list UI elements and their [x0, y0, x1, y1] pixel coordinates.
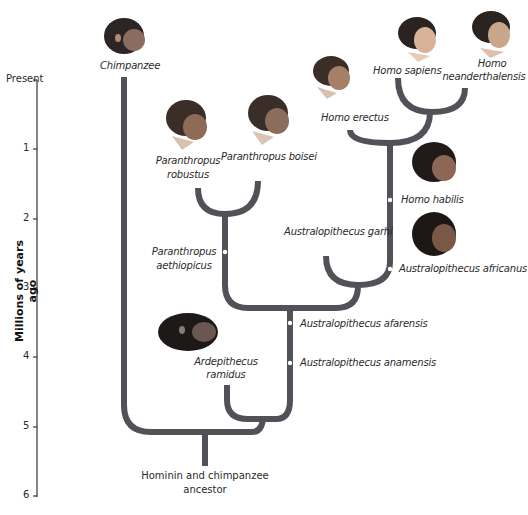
- label-paranthropus-aethiopicus-1: Paranthropus: [148, 245, 220, 258]
- label-homo-neanderthalensis-2: neanderthalensis: [440, 70, 528, 83]
- homo-sapiens-head: [398, 17, 436, 62]
- label-australopithecus-anamensis: Australopithecus anamensis: [300, 356, 436, 369]
- label-homo-erectus: Homo erectus: [321, 111, 389, 124]
- label-chimpanzee: Chimpanzee: [100, 59, 160, 72]
- label-paranthropus-boisei: Paranthropus boisei: [221, 150, 317, 163]
- homo-habilis-head: [412, 142, 456, 182]
- species-dot-africanus: [388, 267, 392, 271]
- homo-neanderthalensis-head: [472, 11, 510, 58]
- label-ardipithecus-ramidus-2: ramidus: [186, 368, 266, 381]
- root-label-line2: ancestor: [140, 483, 270, 497]
- paranthropus-robustus-head: [166, 100, 207, 150]
- chimpanzee-head: [104, 18, 145, 54]
- australopithecus-africanus-head: [412, 212, 456, 256]
- species-dot-aethiopicus: [223, 250, 227, 254]
- axis-tick-label-present: Present: [6, 73, 44, 84]
- species-dot-afarensis: [288, 321, 292, 325]
- axis-tick-label-6: 6: [23, 489, 29, 500]
- label-paranthropus-aethiopicus-2: aethiopicus: [148, 259, 220, 272]
- ardipithecus-ramidus-head: [158, 313, 218, 351]
- species-dot-anamensis: [288, 361, 292, 365]
- axis-title: Millions of years ago: [13, 231, 39, 351]
- axis-tick-label-2: 2: [23, 212, 29, 223]
- label-root-ancestor: Hominin and chimpanzee ancestor: [140, 469, 270, 497]
- label-australopithecus-afarensis: Australopithecus afarensis: [300, 317, 428, 330]
- branch-ardipithecus: [227, 385, 290, 419]
- species-dot-habilis: [388, 198, 392, 202]
- root-label-line1: Hominin and chimpanzee: [140, 469, 270, 483]
- axis-tick-label-1: 1: [23, 142, 29, 153]
- axis-tick-label-4: 4: [23, 350, 29, 361]
- label-homo-neanderthalensis-1: Homo: [462, 57, 522, 70]
- label-homo-sapiens: Homo sapiens: [373, 64, 441, 77]
- axis-tick-label-5: 5: [23, 420, 29, 431]
- paranthropus-boisei-head: [248, 95, 289, 145]
- label-homo-habilis: Homo habilis: [401, 193, 464, 206]
- label-paranthropus-robustus-2: robustus: [148, 168, 228, 181]
- branch-garhi-homo: [326, 140, 390, 285]
- label-paranthropus-robustus-1: Paranthropus: [148, 154, 228, 167]
- branch-paranthropus: [198, 181, 258, 214]
- homo-erectus-head: [313, 56, 350, 99]
- label-australopithecus-garhi: Australopithecus garhi: [284, 225, 393, 238]
- label-ardipithecus-ramidus-1: Ardepithecus: [186, 355, 266, 368]
- label-australopithecus-africanus: Australopithecus africanus: [399, 262, 527, 275]
- branch-sapiens-neanderthal: [398, 78, 465, 112]
